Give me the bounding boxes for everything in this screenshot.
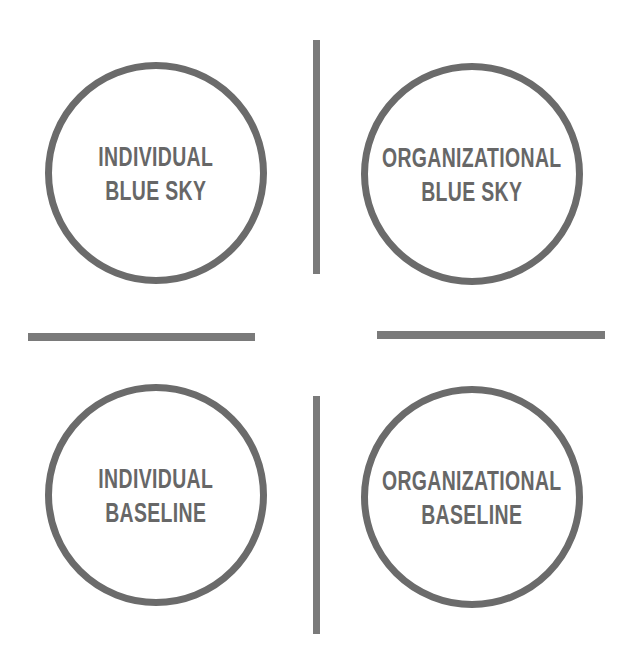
label-line-2: BLUE SKY: [421, 175, 522, 209]
circle-organizational-blue-sky: ORGANIZATIONAL BLUE SKY: [361, 63, 583, 285]
label-line-1: ORGANIZATIONAL: [382, 464, 562, 498]
circle-individual-blue-sky: INDIVIDUAL BLUE SKY: [45, 62, 267, 284]
label-line-1: INDIVIDUAL: [99, 140, 214, 174]
circle-organizational-baseline: ORGANIZATIONAL BASELINE: [361, 386, 583, 608]
circle-individual-baseline: INDIVIDUAL BASELINE: [45, 384, 267, 606]
divider-horizontal-right: [377, 331, 605, 339]
circle-label: INDIVIDUAL BASELINE: [99, 462, 214, 530]
circle-label: INDIVIDUAL BLUE SKY: [99, 140, 214, 208]
divider-vertical-bottom: [313, 396, 320, 634]
divider-horizontal-left: [28, 333, 255, 341]
divider-vertical-top: [313, 40, 320, 274]
label-line-1: ORGANIZATIONAL: [382, 141, 562, 175]
circle-label: ORGANIZATIONAL BASELINE: [382, 464, 562, 532]
circle-label: ORGANIZATIONAL BLUE SKY: [382, 141, 562, 209]
label-line-2: BLUE SKY: [105, 174, 206, 208]
label-line-1: INDIVIDUAL: [99, 462, 214, 496]
label-line-2: BASELINE: [421, 498, 522, 532]
label-line-2: BASELINE: [105, 496, 206, 530]
